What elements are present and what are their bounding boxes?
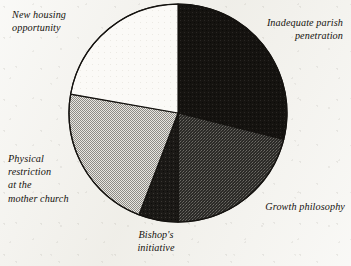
pie-label-new-housing-opportunity: New housing opportunity bbox=[12, 8, 66, 34]
pie-label-bishops-initiative: Bishop's initiative bbox=[108, 228, 204, 254]
pie-label-growth-philosophy: Growth philosophy bbox=[265, 200, 345, 213]
pie-slice-new-housing-opportunity[interactable] bbox=[71, 4, 178, 113]
pie-chart-figure: New housing opportunity Inadequate paris… bbox=[0, 0, 351, 266]
pie-slices-group bbox=[69, 4, 287, 222]
pie-label-physical-restriction: Physical restriction at the mother churc… bbox=[8, 152, 69, 205]
pie-label-inadequate-parish-penetration: Inadequate parish penetration bbox=[267, 16, 343, 42]
